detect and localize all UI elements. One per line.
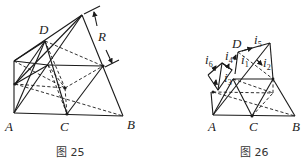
- diagram-canvas: R D A C B 图 25: [0, 0, 303, 165]
- figure-25: R D A C B 图 25: [4, 6, 135, 159]
- label-c: C: [249, 119, 258, 134]
- label-d: D: [38, 22, 49, 37]
- label-a: A: [4, 119, 13, 134]
- label-a: A: [207, 119, 216, 134]
- figure-26-solid-edges: [208, 43, 295, 116]
- node-dot: [63, 86, 66, 89]
- label-r: R: [97, 29, 106, 44]
- current-label-i6: i6: [205, 52, 213, 69]
- node-dot: [272, 78, 275, 81]
- label-b: B: [292, 119, 300, 134]
- node-dot: [212, 91, 215, 94]
- figure-26-caption: 图 26: [240, 146, 269, 159]
- label-d: D: [231, 36, 242, 51]
- node-dot: [251, 115, 254, 118]
- label-c: C: [60, 119, 69, 134]
- current-label-i2: i2: [263, 55, 271, 72]
- label-b: B: [127, 117, 135, 132]
- node-dot: [65, 112, 68, 115]
- figure-25-caption: 图 25: [56, 146, 85, 159]
- figure-26: i5 i1 i2 i3 i4 i6 D A C B 图 26: [205, 32, 300, 159]
- current-label-i1: i1: [241, 52, 249, 69]
- current-label-i5: i5: [254, 32, 262, 49]
- node-dot: [101, 64, 104, 67]
- node-dot: [13, 82, 16, 85]
- figure-25-solid-edges: [14, 15, 123, 116]
